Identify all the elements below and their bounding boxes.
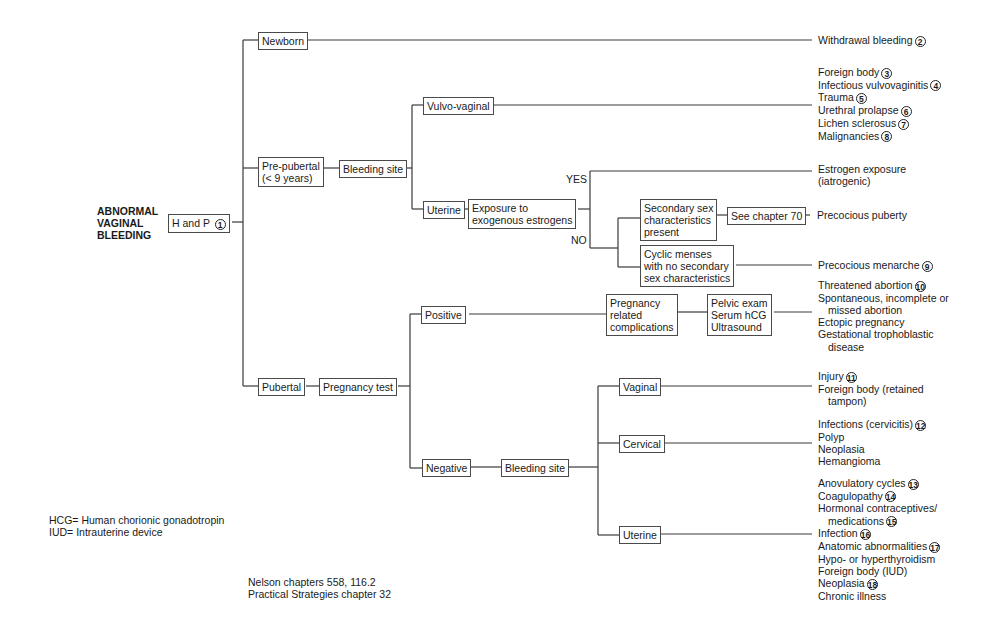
node-newborn: Newborn (258, 32, 308, 50)
outcome-text: Injury (818, 370, 844, 382)
outcome-text: Urethral prolapse (818, 104, 899, 116)
node-label: Exposure to (472, 202, 572, 214)
node-label: related (610, 309, 674, 321)
outcome-estrogen-exposure: Estrogen exposure (iatrogenic) (818, 163, 906, 187)
outcome-text: (iatrogenic) (818, 175, 906, 187)
node-negative: Negative (422, 459, 471, 477)
outcome-text: tampon) (818, 395, 924, 407)
reference-entry: Practical Strategies chapter 32 (248, 588, 391, 600)
outcome-text: Threatened abortion (818, 279, 913, 291)
reference-number-badge: 17 (929, 542, 940, 553)
node-label: Ultrasound (711, 321, 768, 333)
branch-label-no: NO (571, 234, 587, 246)
node-label: exogenous estrogens (472, 214, 572, 226)
reference-number-badge: 9 (922, 261, 933, 272)
legend-entry: IUD= Intrauterine device (49, 526, 224, 538)
outcome-text: Hypo- or hyperthyroidism (818, 553, 940, 565)
node-label: complications (610, 321, 674, 333)
node-label: present (644, 226, 713, 238)
node-label: Cyclic menses (644, 248, 730, 260)
outcome-text: Infection (818, 527, 858, 539)
node-label: (< 9 years) (262, 172, 320, 184)
outcome-text: Neoplasia (818, 577, 865, 589)
branch-label-yes: YES (566, 173, 587, 185)
outcome-text: Foreign body (818, 66, 879, 78)
reference-number-badge: 11 (846, 372, 857, 383)
outcome-text: Hormonal contraceptives/ (818, 502, 940, 514)
node-label: H and P (172, 217, 210, 229)
abbreviation-legend: HCG= Human chorionic gonadotropin IUD= I… (49, 514, 224, 538)
outcome-text: Infectious vulvovaginitis (818, 79, 928, 91)
node-label: Secondary sex (644, 202, 713, 214)
reference-number-badge: 13 (908, 479, 919, 490)
node-vulvo-vaginal: Vulvo-vaginal (423, 97, 494, 115)
node-prepubertal: Pre-pubertal (< 9 years) (258, 157, 324, 187)
outcome-text: Foreign body (retained (818, 383, 924, 395)
reference-number-badge: 3 (881, 68, 892, 79)
outcome-precocious-puberty: Precocious puberty (817, 209, 907, 221)
diagram-title: ABNORMAL VAGINAL BLEEDING (97, 205, 158, 241)
outcome-text: Infections (cervicitis) (818, 418, 913, 430)
node-pubertal: Pubertal (258, 378, 305, 396)
outcome-text: Precocious puberty (817, 209, 907, 221)
outcome-text: Anovulatory cycles (818, 477, 906, 489)
outcome-text: Coagulopathy (818, 490, 883, 502)
reference-number-badge: 12 (915, 420, 926, 431)
outcome-text: Lichen sclerosus (818, 117, 896, 129)
reference-number-badge: 14 (885, 491, 896, 502)
outcome-newborn: Withdrawal bleeding2 (818, 34, 926, 47)
outcome-text: Chronic illness (818, 590, 940, 602)
reference-number-badge: 2 (915, 36, 926, 47)
title-line: VAGINAL (97, 217, 158, 229)
reference-number-badge: 10 (915, 281, 926, 292)
node-label: sex characteristics (644, 272, 730, 284)
outcome-text: Polyp (818, 431, 926, 443)
outcome-text: Gestational trophoblastic (818, 328, 949, 340)
outcome-text: Anatomic abnormalities (818, 540, 927, 552)
node-pregnancy-test: Pregnancy test (319, 378, 397, 396)
reference-number-badge: 8 (881, 131, 892, 142)
node-pelvic-exam: Pelvic exam Serum hCG Ultrasound (707, 294, 772, 336)
outcome-precocious-menarche: Precocious menarche9 (818, 259, 933, 272)
reference-number-badge: 1 (215, 219, 226, 230)
node-bleeding-site-pubertal: Bleeding site (501, 459, 569, 477)
node-label: Pre-pubertal (262, 160, 320, 172)
outcome-text: Spontaneous, incomplete or (818, 292, 949, 304)
node-see-chapter-70: See chapter 70 (727, 207, 806, 225)
outcome-list-pregnancy: Threatened abortion10 Spontaneous, incom… (818, 279, 949, 353)
outcome-list-vaginal: Injury11 Foreign body (retained tampon) (818, 370, 924, 407)
outcome-text: Hemangioma (818, 455, 926, 467)
reference-number-badge: 18 (867, 579, 878, 590)
outcome-text: missed abortion (818, 304, 949, 316)
outcome-text: Neoplasia (818, 443, 926, 455)
node-h-and-p: H and P 1 (168, 214, 230, 233)
node-secondary-sex-characteristics: Secondary sex characteristics present (640, 199, 717, 241)
reference-number-badge: 6 (901, 106, 912, 117)
node-uterine-prepubertal: Uterine (423, 201, 465, 219)
node-positive: Positive (421, 306, 466, 324)
reference-number-badge: 5 (856, 93, 867, 104)
node-pregnancy-complications: Pregnancy related complications (606, 294, 678, 336)
outcome-text: medications (828, 515, 884, 527)
node-bleeding-site-prepubertal: Bleeding site (339, 160, 407, 178)
node-label: Pregnancy (610, 297, 674, 309)
node-exposure-estrogens: Exposure to exogenous estrogens (468, 199, 576, 229)
reference-number-badge: 4 (930, 80, 941, 91)
title-line: BLEEDING (97, 229, 158, 241)
outcome-text: Trauma (818, 91, 854, 103)
references: Nelson chapters 558, 116.2 Practical Str… (248, 576, 391, 600)
node-cervical: Cervical (619, 435, 665, 453)
reference-number-badge: 7 (898, 119, 909, 130)
node-label: Serum hCG (711, 309, 768, 321)
outcome-list-vulvo-vaginal: Foreign body3 Infectious vulvovaginitis4… (818, 66, 941, 142)
node-label: with no secondary (644, 260, 730, 272)
outcome-text: disease (818, 341, 949, 353)
node-label: characteristics (644, 214, 713, 226)
outcome-text: Estrogen exposure (818, 163, 906, 175)
outcome-list-uterine: Anovulatory cycles13 Coagulopathy14 Horm… (818, 477, 940, 602)
node-vaginal: Vaginal (619, 378, 661, 396)
reference-entry: Nelson chapters 558, 116.2 (248, 576, 391, 588)
outcome-text: Precocious menarche (818, 259, 920, 271)
outcome-text: Foreign body (IUD) (818, 565, 940, 577)
outcome-text: Malignancies (818, 130, 879, 142)
